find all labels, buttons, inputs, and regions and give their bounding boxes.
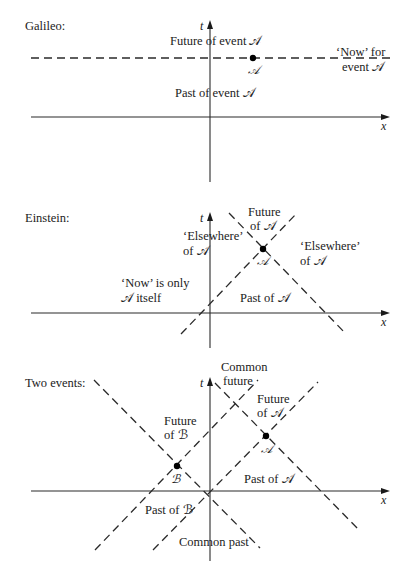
- event-b-point: [174, 463, 180, 469]
- event-a-label: 𝒜: [257, 254, 272, 268]
- panel-twoevents: Two events:xtCommonfutureFutureof 𝒜Futur…: [25, 360, 390, 561]
- panel-title: Galileo:: [25, 19, 65, 33]
- event-a-point: [250, 55, 256, 61]
- x-axis-label: x: [380, 493, 387, 507]
- light-cone-line: [229, 213, 346, 334]
- t-axis-arrow-icon: [207, 212, 213, 221]
- panel-galileo: Galileo:xtFuture of event 𝒜‘Now’ foreven…: [25, 19, 390, 182]
- spacetime-diagram: Galileo:xtFuture of event 𝒜‘Now’ foreven…: [0, 0, 404, 569]
- region-label: of ℬ: [164, 428, 188, 442]
- region-label: Common: [221, 360, 268, 374]
- event-a-point: [260, 246, 266, 252]
- panel-title: Einstein:: [25, 211, 69, 225]
- region-label: event 𝒜: [342, 60, 386, 74]
- region-label: Future: [248, 205, 281, 219]
- t-axis-label: t: [200, 19, 204, 33]
- region-label: Future of event 𝒜: [170, 34, 263, 48]
- x-axis-label: x: [380, 119, 387, 133]
- region-label: Past of ℬ: [145, 503, 193, 517]
- region-label: of 𝒜: [250, 219, 278, 233]
- x-axis-label: x: [380, 315, 387, 329]
- event-a-label: 𝒜: [248, 63, 263, 77]
- t-axis-label: t: [200, 376, 204, 390]
- region-label: ‘Now’ is only: [121, 276, 190, 290]
- t-axis-arrow-icon: [207, 20, 213, 29]
- region-label: future: [223, 374, 253, 388]
- event-a-label: 𝒜: [261, 442, 276, 456]
- region-label: Past of 𝒜: [244, 472, 296, 486]
- region-label: Past of 𝒜: [240, 291, 292, 305]
- panel-einstein: Einstein:xtFutureof 𝒜‘Elsewhere’of 𝒜‘Els…: [25, 205, 390, 348]
- region-label: Future: [257, 392, 290, 406]
- region-label: 𝒜 itself: [121, 291, 162, 305]
- region-label: Future: [164, 414, 197, 428]
- panel-title: Two events:: [25, 376, 86, 390]
- event-a-point: [263, 433, 269, 439]
- region-label: ‘Elsewhere’: [300, 239, 360, 253]
- region-label: ‘Now’ for: [336, 45, 386, 59]
- region-label: of 𝒜: [300, 254, 328, 268]
- t-axis-arrow-icon: [207, 377, 213, 386]
- region-label: ‘Elsewhere’: [183, 229, 243, 243]
- event-b-label: ℬ: [171, 472, 182, 486]
- region-label: Past of event 𝒜: [175, 86, 257, 100]
- region-label: of 𝒜: [183, 244, 211, 258]
- t-axis-label: t: [200, 211, 204, 225]
- region-label: of 𝒜: [257, 406, 285, 420]
- region-label: Common past: [179, 535, 249, 549]
